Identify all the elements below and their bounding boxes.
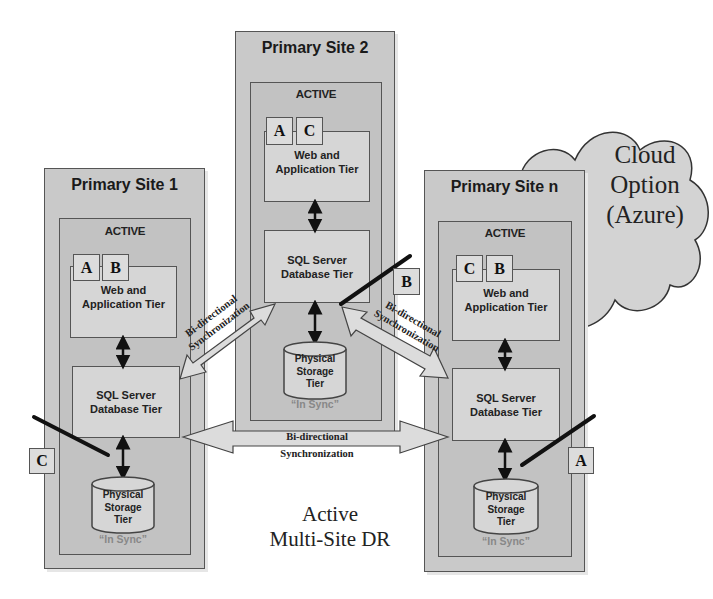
site-n-storage-line2: Storage [474,504,538,517]
sync-label-site1-siten-line2: Synchronization [227,447,407,460]
site-n-storage-line3: Tier [474,516,538,529]
diagram-title: Active Multi-Site DR [240,502,420,552]
site-2-external-badge-b: B [393,268,420,295]
site-n-external-badge-a: A [568,447,594,474]
site-n-sync-status: “In Sync” [461,535,551,547]
sync-label-site1-siten: Bi-directional Synchronization [227,430,407,460]
site-1-external-badge-c: C [29,448,55,474]
site-2-sync-status: “In Sync” [270,398,360,410]
site-1-storage-label: Physical Storage Tier [92,489,154,527]
site-2-storage-line1: Physical [284,353,346,366]
site-n-storage-line1: Physical [474,491,538,504]
site-1-storage-line1: Physical [92,489,154,502]
site-2-storage-label: Physical Storage Tier [284,353,346,391]
site-2-storage-line2: Storage [284,366,346,379]
diagram-title-line1: Active [240,502,420,527]
site-1-sync-status: “In Sync” [78,533,168,545]
site-1-storage-line3: Tier [92,514,154,527]
sync-label-site1-siten-line1: Bi-directional [227,430,407,443]
site-2-storage-line3: Tier [284,378,346,391]
diagram-canvas: Cloud Option (Azure) Primary Site 2 ACTI… [0,0,713,599]
diagram-title-line2: Multi-Site DR [240,527,420,552]
site-1-storage-line2: Storage [92,502,154,515]
site-n-storage-label: Physical Storage Tier [474,491,538,529]
